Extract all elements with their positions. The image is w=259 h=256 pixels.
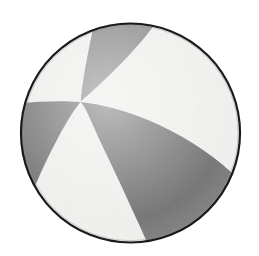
beachball-figure: [0, 0, 259, 256]
beachball-diagram: [0, 0, 259, 256]
